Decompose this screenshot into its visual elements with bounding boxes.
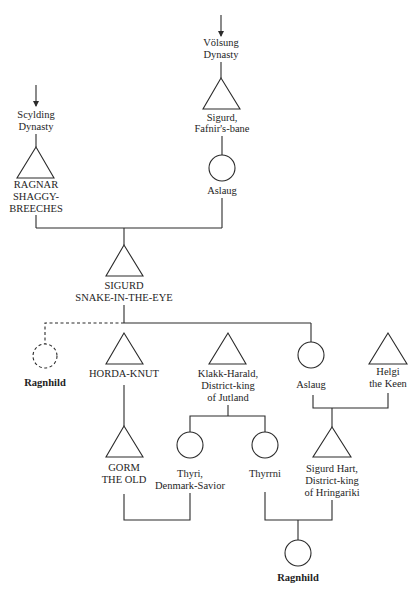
person-name: Thyri,: [177, 468, 203, 479]
male-triangle-icon: [106, 333, 143, 364]
uncertain-descent-line: [45, 323, 124, 344]
person-klakk-harald: Klakk-Harald, District-king of Jutland: [190, 333, 265, 432]
volsung-label: Völsung: [203, 37, 239, 48]
person-sigurd-hart: Sigurd Hart, District-king of Hringariki: [304, 427, 359, 498]
person-sigurd-snake-in-the-eye: SIGURD SNAKE-IN-THE-EYE: [75, 245, 172, 323]
person-aslaug-1: Aslaug: [207, 155, 237, 228]
person-title: District-king: [201, 380, 255, 391]
person-name: Ragnhild: [277, 572, 319, 583]
person-ragnhild-uncertain: Ragnhild: [24, 344, 66, 388]
person-name: Thyrrni: [249, 468, 281, 479]
person-thyri: Thyri, Denmark-Savior: [155, 432, 225, 491]
genealogy-diagram: Völsung Dynasty Sigurd, Fafnir's-bane As…: [0, 0, 419, 590]
scylding-dynasty-group: Scylding Dynasty: [17, 85, 55, 147]
person-name: Ragnhild: [24, 377, 66, 388]
volsung-dynasty-group: Völsung Dynasty: [203, 15, 239, 78]
person-name: RAGNAR: [14, 179, 58, 190]
male-triangle-icon: [369, 333, 407, 364]
person-helgi-the-keen: Helgi the Keen: [369, 333, 408, 389]
person-name: SIGURD: [104, 280, 144, 291]
male-triangle-icon: [106, 426, 143, 457]
person-epithet: the Keen: [369, 378, 407, 389]
male-triangle-icon: [203, 78, 240, 109]
person-ragnar-shaggy-breeches: RAGNAR SHAGGY- BREECHES: [9, 147, 63, 228]
person-realm: of Hringariki: [304, 487, 359, 498]
female-circle-icon: [298, 342, 324, 368]
female-circle-icon: [285, 540, 311, 566]
marriage-line-gorm-thyri: [124, 493, 190, 520]
scylding-dynasty-label: Dynasty: [19, 121, 55, 132]
person-title: District-king: [305, 475, 359, 486]
person-name: Sigurd,: [207, 112, 238, 123]
female-circle-icon: [209, 155, 235, 181]
person-name: Klakk-Harald,: [198, 368, 258, 379]
person-epithet-1: SHAGGY-: [13, 191, 60, 202]
person-epithet: Fafnir's-bane: [195, 123, 250, 134]
female-circle-icon: [252, 432, 278, 458]
volsung-dynasty-label: Dynasty: [204, 49, 240, 60]
male-triangle-icon: [313, 427, 351, 457]
person-name: Aslaug: [207, 185, 237, 196]
person-epithet: SNAKE-IN-THE-EYE: [75, 292, 172, 303]
person-thyrrni: Thyrrni: [249, 432, 281, 479]
person-gorm-the-old: GORM THE OLD: [102, 426, 147, 485]
scylding-label: Scylding: [17, 109, 55, 120]
person-name: HORDA-KNUT: [89, 368, 160, 379]
person-ragnhild: Ragnhild: [277, 540, 319, 583]
male-triangle-icon: [209, 333, 246, 364]
female-circle-dashed-icon: [33, 344, 57, 368]
male-triangle-icon: [17, 147, 54, 178]
person-epithet: Denmark-Savior: [155, 480, 225, 491]
person-name: Helgi: [376, 366, 399, 377]
female-circle-icon: [177, 432, 203, 458]
person-name: Sigurd Hart,: [306, 463, 358, 474]
male-triangle-icon: [106, 245, 143, 276]
person-sigurd-fafnirs-bane: Sigurd, Fafnir's-bane: [195, 78, 250, 155]
marriage-line: [313, 393, 388, 408]
person-realm: of Jutland: [207, 392, 249, 403]
person-epithet-2: BREECHES: [9, 203, 63, 214]
person-name: GORM: [108, 462, 140, 473]
person-name: Aslaug: [296, 379, 326, 390]
arrowhead-icon: [33, 101, 39, 107]
person-epithet: THE OLD: [102, 474, 147, 485]
person-horda-knut: HORDA-KNUT: [89, 333, 160, 426]
person-aslaug-2: Aslaug: [296, 342, 326, 390]
